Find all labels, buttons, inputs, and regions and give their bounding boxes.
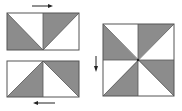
pinwheel-center-point	[137, 59, 139, 61]
arrow-right	[32, 4, 53, 8]
pinwheel-diagram	[0, 0, 182, 111]
pinwheel-block	[103, 24, 174, 96]
arrow-down-icon	[94, 66, 98, 72]
top-strip	[7, 13, 79, 50]
arrow-right-icon	[48, 4, 53, 8]
arrow-down	[94, 56, 98, 72]
arrow-left	[33, 101, 55, 105]
arrow-left-icon	[33, 101, 38, 105]
bottom-strip	[7, 61, 79, 97]
